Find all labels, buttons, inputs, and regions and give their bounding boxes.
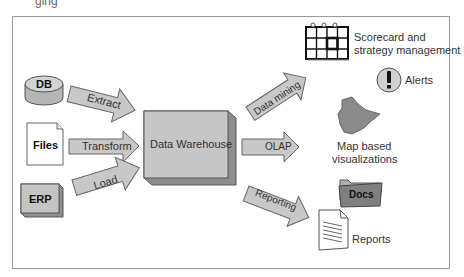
scorecard-label-line1: Scorecard and [354,31,426,44]
reports-label: Reports [352,233,391,246]
olap-label: OLAP [265,140,292,153]
db-label: DB [36,78,52,91]
data-warehouse-label: Data Warehouse [150,138,232,151]
calendar-grid-icon [306,23,349,60]
erp-label: ERP [29,193,52,206]
exclamation-icon [377,68,401,92]
map-icon [338,97,380,134]
scorecard-label-line2: strategy management [354,44,460,57]
files-label: Files [33,139,58,152]
report-document-icon [319,210,348,250]
transform-label: Transform [82,140,132,153]
map-label-line2: visualizations [332,153,397,166]
docs-label: Docs [349,188,373,201]
map-label-line1: Map based [337,140,391,153]
alerts-label: Alerts [405,74,433,87]
